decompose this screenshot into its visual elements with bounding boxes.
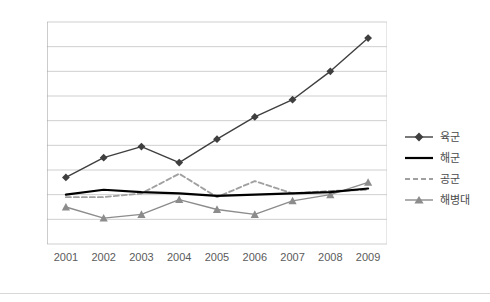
legend-item-navy[interactable]: 해군 <box>404 147 488 168</box>
chart-legend: 육군 해군 공군 해병대 <box>404 126 488 210</box>
legend-item-army[interactable]: 육군 <box>404 126 488 147</box>
series-line <box>66 38 368 177</box>
legend-swatch-diamond-icon <box>404 130 434 144</box>
x-axis-tick: 2005 <box>205 251 229 263</box>
data-point-marker <box>251 113 259 121</box>
legend-label-navy: 해군 <box>440 151 460 165</box>
plot-area: 0204060801001201401601802001200220032004… <box>47 18 387 270</box>
legend-swatch-dashed-line-icon <box>404 172 434 186</box>
footer-divider <box>0 293 490 294</box>
data-point-marker <box>62 203 70 211</box>
legend-swatch-triangle-icon <box>404 193 434 207</box>
legend-label-marines: 해병대 <box>440 193 470 207</box>
x-axis-tick: 2001 <box>54 251 78 263</box>
x-axis-tick: 2006 <box>243 251 267 263</box>
x-axis-tick: 2004 <box>167 251 191 263</box>
x-axis-tick: 2008 <box>318 251 342 263</box>
x-axis-tick: 2007 <box>280 251 304 263</box>
data-point-marker <box>100 154 108 162</box>
chart-canvas: 0204060801001201401601802001200220032004… <box>47 18 387 270</box>
data-point-marker <box>62 174 70 182</box>
legend-item-airforce[interactable]: 공군 <box>404 168 488 189</box>
legend-label-airforce: 공군 <box>440 172 460 186</box>
data-point-marker <box>175 159 183 167</box>
data-point-marker <box>175 196 183 204</box>
data-point-marker <box>364 178 372 186</box>
x-axis-tick: 2002 <box>91 251 115 263</box>
data-point-marker <box>213 135 221 143</box>
legend-swatch-solid-line-icon <box>404 151 434 165</box>
line-chart: 0204060801001201401601802001200220032004… <box>0 0 490 302</box>
x-axis-tick: 2003 <box>129 251 153 263</box>
data-point-marker <box>138 143 146 151</box>
legend-item-marines[interactable]: 해병대 <box>404 189 488 210</box>
series-line <box>66 174 368 197</box>
legend-label-army: 육군 <box>440 130 460 144</box>
x-axis-tick: 2009 <box>356 251 380 263</box>
